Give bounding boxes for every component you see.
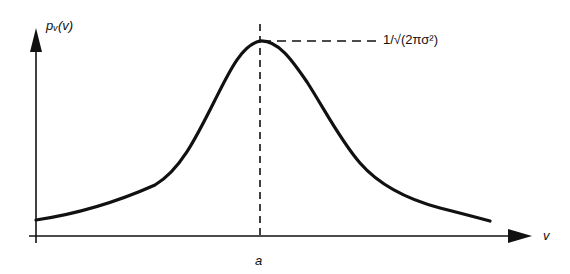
mean-label: a bbox=[255, 253, 262, 268]
y-axis-arrowhead bbox=[30, 28, 42, 52]
y-axis-label: pᵥ(v) bbox=[46, 18, 73, 33]
density-curve bbox=[36, 41, 490, 221]
gaussian-diagram bbox=[0, 0, 570, 274]
peak-value-label: 1/√(2πσ²) bbox=[383, 32, 438, 47]
x-axis-label: v bbox=[543, 228, 550, 243]
x-axis-arrowhead bbox=[508, 229, 532, 243]
